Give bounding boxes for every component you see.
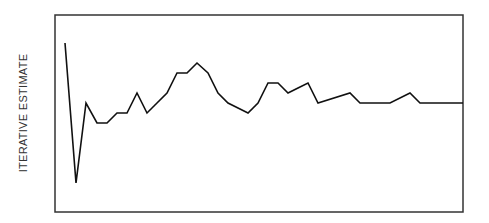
line-chart [0,0,489,223]
estimate-line [65,43,463,183]
